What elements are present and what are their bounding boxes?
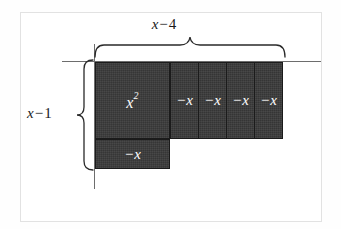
figure-canvas: x−4 x−1 x2 −x −x −x −x −x [0, 0, 341, 229]
tile-negative-x-strip-1-label: −x [176, 92, 193, 109]
tile-negative-x-strip-4-label: −x [260, 92, 277, 109]
tile-negative-x-strip-1: −x [170, 62, 199, 139]
tile-negative-x-bottom-label: −x [124, 146, 141, 163]
tile-x-squared: x2 [95, 62, 170, 139]
width-label: x−4 [152, 16, 177, 33]
width-label-var: x [152, 16, 159, 32]
height-label-num: 1 [44, 105, 52, 121]
height-label-op: − [34, 105, 44, 121]
tile-negative-x-strip-3: −x [226, 62, 255, 139]
tile-negative-x-strip-4: −x [254, 62, 283, 139]
tile-x-squared-exponent: 2 [134, 90, 139, 101]
tile-negative-x-strip-2-label: −x [204, 92, 221, 109]
tile-x-squared-base: x [126, 94, 133, 111]
width-label-num: 4 [169, 16, 177, 32]
tile-negative-x-strip-3-label: −x [232, 92, 249, 109]
height-label-var: x [27, 105, 34, 121]
tile-negative-x-bottom: −x [95, 139, 170, 169]
height-label: x−1 [27, 105, 52, 122]
left-brace-icon [76, 57, 96, 173]
top-brace-icon [92, 36, 288, 58]
width-label-op: − [158, 16, 168, 32]
tile-negative-x-strip-2: −x [198, 62, 227, 139]
tile-x-squared-label: x2 [126, 93, 139, 112]
